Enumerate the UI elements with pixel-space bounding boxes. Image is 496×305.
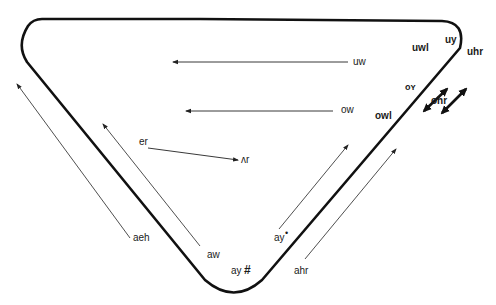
- label-ay-sharp: ay: [231, 266, 242, 276]
- label-uw: uw: [353, 57, 366, 67]
- label-uy: uy: [445, 35, 457, 45]
- aw-arrow: [103, 124, 200, 246]
- label-uhr: uhr: [467, 47, 483, 57]
- ahr-arrow: [305, 149, 396, 259]
- label-ohr: ohr: [431, 96, 447, 106]
- label-owl: owl: [375, 111, 392, 121]
- label-oy: oʏ: [405, 83, 416, 92]
- label-ahr: ahr: [294, 266, 308, 276]
- label-er: er: [139, 137, 148, 147]
- er-to-ar-arrow: [148, 148, 238, 160]
- label-aeh: aeh: [133, 233, 150, 243]
- label-aw: aw: [207, 250, 220, 260]
- aeh-arrow: [17, 84, 130, 238]
- ay-dot-arrow: [279, 145, 348, 229]
- label-ar: ʌr: [241, 155, 249, 165]
- label-ay-dot: ay: [274, 233, 285, 243]
- label-ow: ow: [341, 105, 354, 115]
- dot-mark: •: [285, 229, 288, 238]
- label-uwl: uwl: [412, 43, 429, 53]
- sharp-mark: #: [244, 264, 251, 276]
